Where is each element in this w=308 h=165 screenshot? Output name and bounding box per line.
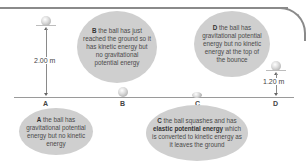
ball-a-shadow	[36, 25, 56, 26]
frame-corner	[272, 7, 306, 41]
drop-height-arrow-down	[44, 93, 48, 96]
point-label-a: A	[43, 100, 48, 107]
bubble-d: D the ball has gravitational potential e…	[194, 11, 270, 77]
bubble-b: B the ball has just reached the ground s…	[77, 11, 157, 83]
ball-c-squashed	[192, 92, 202, 98]
ground-line	[14, 97, 294, 98]
bubble-c-bold: elastic potential energy	[153, 125, 223, 132]
point-label-b: B	[120, 100, 125, 107]
bounce-height-arrow-down	[274, 93, 278, 96]
bubble-c: C the ball squashes and has elastic pote…	[146, 105, 248, 161]
bubble-a-text: the ball has gravitational potential ene…	[26, 116, 86, 147]
bubble-d-text: the ball has gravitational potential ene…	[202, 24, 262, 63]
bounce-height-label: 1.20 m	[262, 78, 285, 85]
ball-d-shadow	[266, 70, 286, 71]
drop-height-label: 2.00 m	[33, 57, 56, 64]
ball-b	[118, 87, 128, 97]
frame-top-border	[0, 7, 288, 9]
bubble-c-text-before: the ball squashes and has	[162, 117, 237, 124]
bubble-a: A the ball has gravitational potential e…	[19, 108, 93, 155]
point-label-d: D	[273, 100, 278, 107]
